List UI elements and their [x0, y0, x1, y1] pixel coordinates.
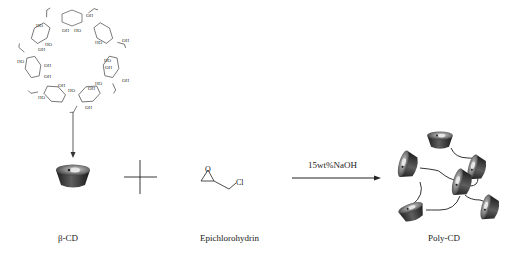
- svg-text:HO: HO: [104, 58, 112, 63]
- svg-text:OH: OH: [122, 78, 130, 83]
- svg-text:HO: HO: [38, 95, 46, 100]
- svg-text:HO: HO: [45, 42, 53, 47]
- beta-cd-hydroxyl-labels: OH HO OH HO OH HO HO OH HO OH HO OH OH O…: [17, 13, 130, 110]
- beta-cd-cone-icon: [56, 165, 90, 188]
- poly-cd-label: Poly-CD: [428, 233, 460, 243]
- svg-text:OH: OH: [105, 65, 113, 70]
- svg-text:OH: OH: [85, 105, 93, 110]
- svg-text:OH: OH: [86, 13, 94, 18]
- svg-text:HO: HO: [95, 40, 103, 45]
- svg-text:HO: HO: [36, 23, 44, 28]
- poly-cd-network: [396, 131, 502, 224]
- svg-text:OH: OH: [44, 63, 52, 68]
- epichlorohydrin-label: Epichlorohydrin: [200, 233, 259, 243]
- svg-text:OH: OH: [88, 86, 96, 91]
- svg-text:OH: OH: [122, 38, 130, 43]
- svg-text:HO: HO: [74, 28, 82, 33]
- svg-text:HO: HO: [68, 88, 76, 93]
- epoxide-oxygen: O: [205, 165, 211, 174]
- beta-cd-label: β-CD: [58, 233, 78, 243]
- condition-label: 15wt%NaOH: [308, 160, 357, 170]
- svg-text:OH: OH: [58, 83, 66, 88]
- svg-text:HO: HO: [17, 59, 25, 64]
- svg-text:OH: OH: [62, 28, 70, 33]
- reaction-scheme: OH HO OH HO OH HO HO OH HO OH HO OH OH O…: [0, 0, 506, 257]
- svg-text:OH: OH: [38, 47, 46, 52]
- down-arrow: [71, 112, 76, 158]
- chlorine-atom: Cl: [236, 178, 244, 187]
- svg-text:HO: HO: [95, 81, 103, 86]
- plus-sign: [124, 160, 157, 194]
- svg-text:OH: OH: [44, 74, 52, 79]
- reaction-arrow: [292, 176, 381, 181]
